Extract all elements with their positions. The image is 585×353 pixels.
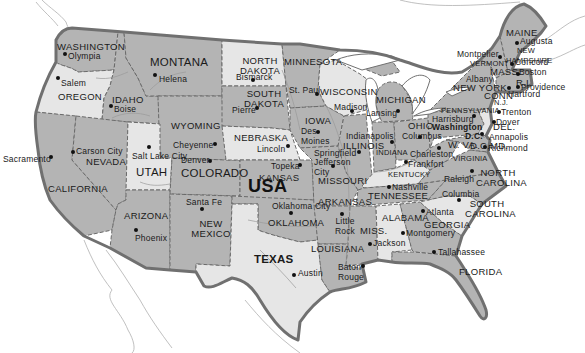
capital-label-trenton: Trenton — [501, 107, 531, 117]
capital-label-pierre: Pierre — [232, 105, 256, 115]
capital-label-boston: Boston — [519, 67, 547, 77]
capital-label-austin: Austin — [298, 268, 323, 278]
capital-label-sacramento: Sacramento — [3, 154, 51, 164]
state-label-ohio: OHIO — [408, 121, 433, 131]
state-label-oklahoma: OKLAHOMA — [268, 218, 324, 228]
capital-label-carson-city: Carson City — [76, 146, 123, 156]
capital-dot — [251, 78, 255, 82]
state-label-indiana: INDIANA — [376, 148, 408, 158]
state-label-arkansas: ARKANSAS — [318, 197, 372, 207]
capital-label-des-moines: Des Moines — [301, 126, 333, 146]
capital-label-cheyenne: Cheyenne — [173, 140, 213, 150]
capital-dot — [515, 41, 519, 45]
state-label-wyoming: WYOMING — [171, 121, 221, 131]
capital-dot — [418, 135, 422, 139]
capital-label-little-rock: Little Rock — [333, 216, 357, 236]
national-capital-dot — [480, 132, 484, 136]
capital-label-lincoln: Lincoln — [257, 144, 285, 154]
capital-dot — [208, 159, 212, 163]
capital-label-montpelier: Montpelier — [457, 49, 499, 59]
capital-label-springfield: Springfield — [314, 148, 356, 158]
state-label-nebraska: NEBRASKA — [234, 133, 288, 143]
capital-label-denver: Denver — [181, 155, 210, 165]
state-label-texas: TEXAS — [254, 254, 293, 264]
capital-dot — [470, 169, 474, 173]
capital-dot — [390, 140, 394, 144]
state-label-louisiana: LOUISIANA — [311, 244, 364, 254]
capital-label-tallahassee: Tallahassee — [438, 247, 485, 257]
state-label-minnesota: MINNESOTA — [284, 57, 342, 67]
capital-label-salem: Salem — [61, 78, 86, 88]
capital-dot — [421, 209, 425, 213]
capital-dot — [134, 228, 138, 232]
capital-dot — [255, 106, 259, 110]
capital-dot — [396, 109, 400, 113]
state-label-montana: MONTANA — [150, 57, 208, 67]
state-label-georgia: GEORGIA — [424, 220, 470, 230]
capital-dot — [109, 104, 113, 108]
state-label-oregon: OREGON — [58, 92, 102, 102]
state-label-virginia: VIRGINIA — [453, 154, 488, 164]
state-label-florida: FLORIDA — [459, 267, 502, 277]
capital-label-boise: Boise — [114, 104, 136, 114]
state-label-vermont: VERMONT — [470, 59, 509, 69]
capital-label-providence: Providence — [521, 82, 566, 92]
state-label-utah: UTAH — [136, 167, 167, 177]
capital-dot — [432, 250, 436, 254]
state-label-alabama: ALABAMA — [382, 213, 429, 223]
capital-label-phoenix: Phoenix — [135, 233, 167, 243]
state-label-missouri: MISSOURI — [318, 176, 367, 186]
capital-label-atlanta: Atlanta — [426, 207, 454, 217]
state-label-mississippi: MISS. — [360, 226, 387, 236]
state-label-maryland: MD. — [490, 141, 508, 151]
capital-dot — [472, 114, 476, 118]
capital-dot — [200, 207, 204, 211]
state-label-delaware: DEL. — [493, 122, 515, 132]
capital-label-helena: Helena — [159, 74, 187, 84]
capital-dot — [286, 144, 290, 148]
capital-dot — [63, 52, 67, 56]
capital-dot — [510, 62, 514, 66]
capital-dot — [147, 145, 151, 149]
state-label-nevada: NEVADA — [86, 157, 126, 167]
capital-dot — [289, 211, 293, 215]
state-label-wisconsin: WISCONSIN — [320, 87, 378, 97]
capital-dot — [316, 130, 320, 134]
capital-dot — [213, 142, 217, 146]
state-label-kansas: KANSAS — [259, 173, 299, 183]
capital-label-charleston: Charleston — [410, 149, 453, 159]
capital-label-augusta: Augusta — [520, 36, 553, 46]
state-label-south-carolina: SOUTH CAROLINA — [465, 199, 509, 219]
state-label-north-carolina: NORTH CAROLINA — [476, 168, 520, 188]
state-label-michigan: MICHIGAN — [376, 95, 426, 105]
capital-dot — [153, 73, 157, 77]
capital-dot — [401, 231, 405, 235]
state-label-iowa: IOWA — [305, 116, 331, 126]
capital-dot — [315, 92, 319, 96]
capital-dot — [350, 109, 354, 113]
state-label-kentucky: KENTUCKY — [388, 170, 430, 180]
capital-label-frankfort: Frankfort — [408, 159, 444, 169]
capital-label-raleigh: Raleigh — [444, 174, 474, 184]
state-label-california: CALIFORNIA — [48, 184, 108, 194]
capital-dot — [56, 76, 60, 80]
capital-dot — [368, 242, 372, 246]
capital-dot — [357, 150, 361, 154]
capital-label-salt-lake-city: Salt Lake City — [132, 151, 187, 161]
capital-dot — [298, 163, 302, 167]
capital-label-jackson: Jackson — [373, 238, 406, 248]
capital-dot — [387, 185, 391, 189]
capital-dot — [71, 150, 75, 154]
capital-dot — [457, 198, 461, 202]
capital-label-concord: Concord — [515, 57, 549, 67]
capital-dot — [292, 273, 296, 277]
state-label-arizona: ARIZONA — [124, 211, 168, 221]
capital-dot — [331, 164, 335, 168]
state-label-colorado: COLORADO — [181, 168, 248, 178]
capital-dot — [49, 155, 53, 159]
capital-label-santa-fe: Santa Fe — [186, 197, 222, 207]
state-label-tennessee: TENNESSEE — [368, 191, 428, 201]
district-label-dc: D.C. — [470, 141, 490, 151]
capital-label-topeka: Topeka — [271, 161, 300, 171]
state-label-new-mexico: NEW MEXICO — [188, 219, 234, 239]
